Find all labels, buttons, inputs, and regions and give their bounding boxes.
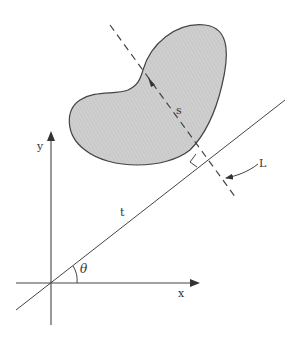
right-angle-marker (190, 154, 197, 167)
kidney-region (69, 25, 226, 165)
pointer-arrow-L (226, 164, 258, 178)
diagram-svg: y x t θ s L (0, 0, 300, 340)
label-line-t: t (120, 206, 125, 219)
label-y-axis: y (36, 140, 44, 153)
angle-arc-theta (73, 266, 77, 283)
label-theta: θ (80, 262, 88, 276)
diagram-canvas: y x t θ s L (0, 0, 300, 340)
label-s: s (176, 104, 182, 117)
label-x-axis: x (178, 287, 185, 300)
label-L: L (259, 157, 267, 170)
